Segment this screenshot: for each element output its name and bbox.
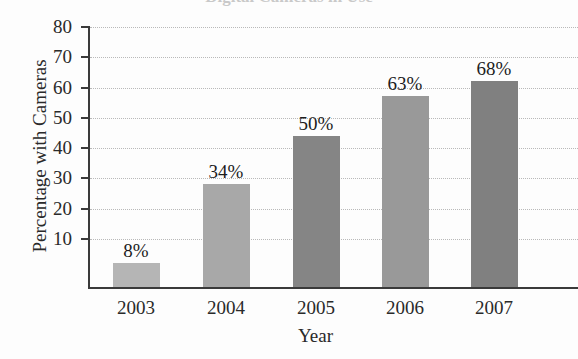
bar-value-label: 8% [123,241,148,260]
y-axis-tick: 10 [81,238,90,240]
y-axis-tick: 30 [81,177,90,179]
y-tick-label: 20 [53,198,72,217]
y-tick-label: 70 [53,47,72,66]
x-tick-label-2003: 2003 [117,298,155,317]
x-axis-line [88,287,578,289]
y-tick-label: 10 [53,228,72,247]
y-axis-tick: 70 [81,56,90,58]
bar-2005: 50% [293,136,340,287]
bar-value-label: 63% [388,74,423,93]
plot-area: 1020304050607080 8%34%50%63%68% 20032004… [88,27,578,289]
bar-chart-figure: Digital Cameras in Use Percentage with C… [0,0,578,359]
y-axis-tick: 60 [81,87,90,89]
y-axis-tick: 50 [81,117,90,119]
y-tick-label: 30 [53,168,72,187]
x-axis-title: Year [88,325,543,347]
y-axis-title: Percentage with Cameras [29,36,51,276]
bar-2004: 34% [203,184,250,287]
chart-title-text: Digital Cameras in Use [0,0,578,7]
bar-2003: 8% [113,263,160,287]
x-tick-label-2004: 2004 [207,298,245,317]
y-tick-label: 50 [53,107,72,126]
y-tick-label: 40 [53,138,72,157]
y-tick-label: 60 [53,77,72,96]
bar-value-label: 50% [299,114,334,133]
y-axis-tick: 80 [81,26,90,28]
y-axis-tick: 40 [81,147,90,149]
y-axis-line [88,27,90,289]
bar-2007: 68% [471,81,518,287]
x-tick-label-2006: 2006 [386,298,424,317]
y-axis-tick: 20 [81,208,90,210]
bar-value-label: 68% [477,59,512,78]
gridline [90,27,578,28]
x-tick-label-2007: 2007 [475,298,513,317]
bar-value-label: 34% [209,162,244,181]
x-tick-label-2005: 2005 [297,298,335,317]
y-tick-label: 80 [53,17,72,36]
chart-title-clipped: Digital Cameras in Use [0,0,578,12]
bar-2006: 63% [382,96,429,287]
